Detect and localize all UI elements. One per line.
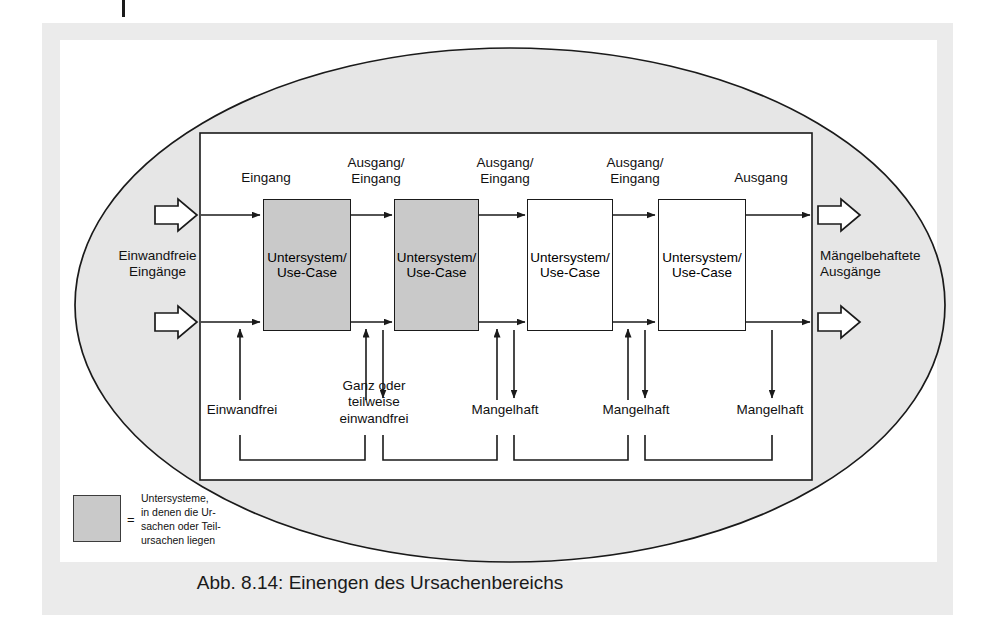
process-box-4[interactable]: Untersystem/Use-Case [658,199,746,331]
legend-color-swatch [73,495,121,542]
label-bottom-mangelhaft-3: Mangelhaft [722,402,818,418]
label-top-ausgang-eingang-1: Ausgang/ Eingang [331,155,421,188]
figure-page: Eingang Ausgang/ Eingang Ausgang/ Eingan… [0,0,999,634]
process-box-1[interactable]: Untersystem/Use-Case [263,199,351,331]
legend-description: Untersysteme, in denen die Ur- sachen od… [141,492,221,548]
process-box-2[interactable]: Untersystem/Use-Case [394,199,479,331]
process-box-4-label: Untersystem/Use-Case [659,250,745,280]
figure-caption: Abb. 8.14: Einengen des Ursachenbereichs [0,572,760,594]
legend-equals-sign: = [127,512,135,527]
label-top-eingang: Eingang [226,170,306,186]
label-top-ausgang-eingang-2: Ausgang/ Eingang [460,155,550,188]
label-bottom-mangelhaft-1: Mangelhaft [457,402,553,418]
label-top-ausgang: Ausgang [716,170,806,186]
process-box-1-label: Untersystem/Use-Case [264,250,350,280]
label-left-einwandfreie-eingaenge: Einwandfreie Eingänge [105,248,210,281]
label-right-maengelbehaftete-ausgaenge: Mängelbehaftete Ausgänge [820,248,980,281]
process-box-3-label: Untersystem/Use-Case [528,250,612,280]
label-bottom-mangelhaft-2: Mangelhaft [588,402,684,418]
label-bottom-einwandfrei: Einwandfrei [192,402,292,418]
process-box-3[interactable]: Untersystem/Use-Case [527,199,613,331]
label-top-ausgang-eingang-3: Ausgang/ Eingang [590,155,680,188]
process-box-2-label: Untersystem/Use-Case [395,250,478,280]
label-bottom-ganz-oder-teilweise-einwandfrei: Ganz oder teilweise einwandfrei [329,378,419,427]
